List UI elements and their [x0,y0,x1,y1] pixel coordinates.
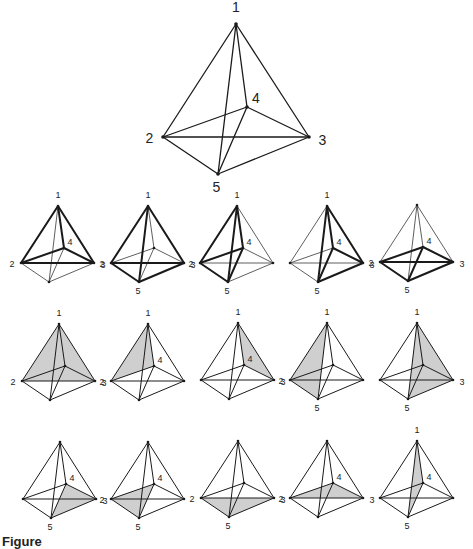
edge-1-4 [236,24,247,107]
vertex-label-5: 5 [213,179,221,195]
small-figure-r1-c2: 1235 [99,190,195,296]
vertex-1 [147,205,150,208]
vertex-3 [452,497,455,500]
edge-2-5 [23,499,51,518]
edge-1-4 [327,323,333,365]
vertex-4 [64,365,67,368]
vertex-label-1: 1 [234,190,239,200]
edge-2-5 [290,263,318,282]
small-figure-r3-c1: 345 [22,441,108,532]
vertex-3 [452,379,455,382]
vertex-5 [50,517,53,520]
vertex-label-2: 2 [189,494,194,504]
vertex-label-2: 2 [99,495,104,505]
vertex-label-1: 1 [56,308,61,318]
vertex-3 [272,262,275,265]
vertex-3 [183,380,186,383]
vertex-1 [147,323,150,326]
vertex-label-1: 1 [145,190,150,200]
edge-1-4 [237,206,243,248]
vertex-4 [332,364,335,367]
shaded-face [201,498,274,517]
edge-2-4 [23,484,66,499]
small-figure-r1-c4: 1345 [289,190,375,296]
edge-2-5 [200,263,228,282]
vertex-2 [199,262,202,265]
vertex-label-3: 3 [459,377,464,387]
edge-2-5 [201,380,229,399]
vertex-4 [422,364,425,367]
vertex-label-4: 4 [157,355,162,365]
vertex-label-4: 4 [67,237,72,247]
vertex-4 [243,482,246,485]
vertex-label-5: 5 [404,403,409,413]
vertex-4 [332,482,335,485]
vertex-5 [227,281,230,284]
vertex-label-5: 5 [404,285,409,295]
vertex-3 [452,261,455,264]
vertex-label-5: 5 [314,286,319,296]
vertex-label-2: 2 [99,377,104,387]
edge-2-5 [22,381,50,400]
vertex-1 [416,440,419,443]
main-figure: 12345 [146,0,327,195]
vertex-1 [147,441,150,444]
vertex-label-1: 1 [324,190,329,200]
edge-2-5 [380,498,408,517]
vertex-4 [245,105,249,109]
vertex-2 [200,379,203,382]
vertex-1 [416,322,419,325]
vertex-label-5: 5 [224,286,229,296]
vertex-3 [93,262,96,265]
edge-2-4 [201,365,244,380]
vertex-label-4: 4 [336,237,341,247]
vertex-label-2: 2 [10,377,15,387]
vertex-5 [228,398,231,401]
vertex-label-1: 1 [232,0,240,15]
vertex-1 [416,204,419,207]
small-figure-r3-c5: 145 [379,425,455,531]
vertex-label-3: 3 [459,259,464,269]
shaded-face [22,324,95,381]
vertex-4 [242,247,245,250]
vertex-label-3: 3 [369,495,374,505]
vertex-2 [22,498,25,501]
vertex-2 [289,379,292,382]
vertex-label-4: 4 [336,472,341,482]
vertex-5 [407,280,410,283]
vertex-2 [110,262,113,265]
vertex-3 [273,379,276,382]
edge-2-4 [163,107,247,137]
vertex-label-3: 3 [319,132,327,148]
vertex-label-5: 5 [225,521,230,531]
vertex-3 [362,262,365,265]
vertex-5 [317,398,320,401]
vertex-4 [153,483,156,486]
vertex-3 [95,498,98,501]
vertex-5 [49,399,52,402]
edge-2-4 [201,483,244,498]
vertex-2 [289,497,292,500]
vertex-4 [153,247,156,250]
vertex-label-2: 2 [368,258,373,268]
vertex-5 [407,516,410,519]
vertex-label-4: 4 [426,472,431,482]
vertex-label-4: 4 [252,90,260,106]
small-figure-r3-c4: 234 [278,440,374,519]
vertex-label-2: 2 [146,130,154,146]
vertex-2 [379,379,382,382]
vertex-3 [183,498,186,501]
vertex-label-4: 4 [157,473,162,483]
vertex-4 [153,365,156,368]
shaded-face [111,324,154,381]
edge-1-3 [237,206,273,263]
vertex-label-2: 2 [278,494,283,504]
vertex-label-5: 5 [47,522,52,532]
vertex-label-1: 1 [145,308,150,318]
vertex-1 [234,22,238,26]
edge-1-3 [148,206,184,263]
vertex-5 [228,516,231,519]
vertex-label-2: 2 [188,259,193,269]
vertex-label-1: 1 [414,307,419,317]
edge-2-5 [111,263,139,282]
